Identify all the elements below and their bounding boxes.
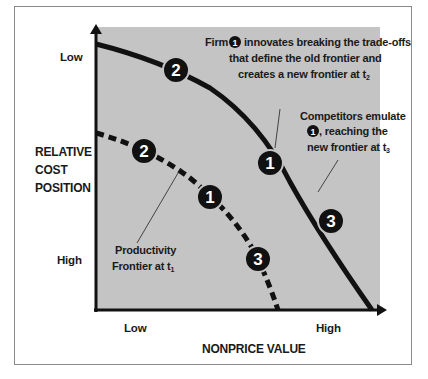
x-axis-title: NONPRICE VALUE [202,342,306,356]
y-tick-low: Low [60,51,83,63]
svg-text:creates a new frontier at t2: creates a new frontier at t2 [238,68,370,81]
svg-text:2: 2 [139,142,148,161]
y-axis-title-line-2: COST [35,163,68,177]
svg-text:Productivity: Productivity [115,244,177,256]
svg-text:3: 3 [326,212,335,231]
y-tick-high: High [57,254,82,266]
svg-text:2: 2 [171,61,180,80]
svg-text:Frontier at t1: Frontier at t1 [112,260,175,273]
x-tick-low: Low [124,322,147,334]
y-axis-title-line-3: POSITION [35,181,91,195]
outer-marker-3: 3 [318,208,344,234]
svg-text:1: 1 [310,127,315,137]
svg-text:Firm: Firm [205,36,228,48]
competitors-annotation: Competitors emulate 1 , reaching the new… [300,110,406,154]
outer-marker-1: 1 [257,150,283,176]
x-tick-high: High [316,322,341,334]
svg-text:innovates breaking the trade-o: innovates breaking the trade-offs [244,36,411,48]
inner-marker-3: 3 [245,246,271,272]
svg-text:1: 1 [265,154,274,173]
svg-text:1: 1 [232,38,237,48]
svg-text:Competitors emulate: Competitors emulate [300,110,406,122]
outer-marker-2: 2 [163,57,189,83]
x-axis-arrow-icon [377,304,387,316]
y-axis-title-line-1: RELATIVE [35,145,92,159]
svg-text:, reaching the: , reaching the [319,125,388,137]
svg-text:1: 1 [205,188,214,207]
svg-text:3: 3 [253,250,262,269]
svg-text:new frontier at t3: new frontier at t3 [307,141,390,154]
inner-marker-2: 2 [131,138,157,164]
inner-marker-1: 1 [197,184,223,210]
svg-text:that define the old frontier a: that define the old frontier and [229,52,382,64]
productivity-frontier-diagram: 2 1 3 2 1 3 Low High RELATIVE COST POSIT… [0,0,428,379]
